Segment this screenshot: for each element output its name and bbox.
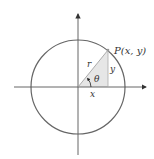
angle-label: θ [94, 74, 100, 84]
unit-circle-diagram: P(x, y) r θ y x [0, 0, 154, 159]
point-p [107, 49, 110, 52]
adjacent-label: x [90, 89, 95, 99]
opposite-label: y [109, 64, 116, 74]
radius-label: r [87, 59, 92, 69]
point-label: P(x, y) [113, 45, 146, 56]
